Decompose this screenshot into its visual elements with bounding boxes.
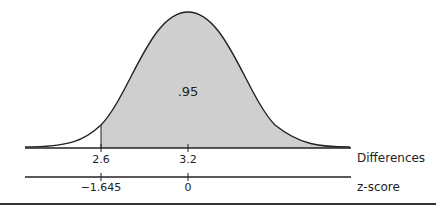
area-label: .95: [178, 84, 199, 99]
diff-tick-mean: 3.2: [179, 153, 197, 166]
z-score-axis-name: z-score: [357, 180, 400, 194]
diff-tick-critical: 2.6: [92, 153, 110, 166]
differences-axis-name: Differences: [357, 151, 425, 165]
shaded-region: [25, 12, 350, 148]
z-tick-mean: 0: [185, 181, 192, 194]
z-tick-critical: −1.645: [81, 181, 122, 194]
normal-curve-plot: [0, 0, 436, 205]
